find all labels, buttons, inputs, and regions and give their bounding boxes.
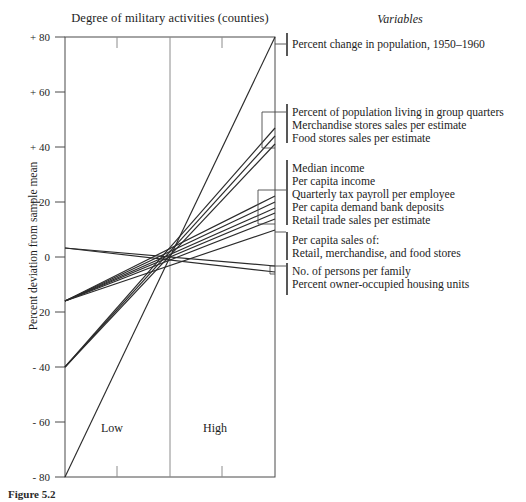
figure-caption: Figure 5.2	[8, 488, 55, 500]
variable-label-retail-trade-sales: Retail trade sales per estimate	[292, 214, 430, 227]
figure-container: Degree of military activities (counties)…	[0, 0, 526, 502]
variable-label-merchandise-stores: Merchandise stores sales per estimate	[292, 119, 467, 132]
variable-label-tax-payroll: Quarterly tax payroll per employee	[292, 188, 455, 201]
variable-label-owner-occupied: Percent owner-occupied housing units	[292, 278, 469, 291]
variable-label-group-quarters: Percent of population living in group qu…	[292, 106, 504, 119]
variable-label-median-income: Median income	[292, 162, 364, 175]
leader-lines	[258, 44, 286, 274]
variable-label-per-capita-sales: Per capita sales of:	[292, 234, 379, 247]
variable-label-food-stores: Food stores sales per estimate	[292, 132, 430, 145]
variable-label-population-change: Percent change in population, 1950–1960	[292, 38, 485, 51]
variable-label-persons-per-family: No. of persons per family	[292, 265, 411, 278]
y-axis-ticks	[55, 37, 65, 477]
variable-label-retail-merch-food: Retail, merchandise, and food stores	[292, 247, 461, 260]
variable-label-per-capita-income: Per capita income	[292, 175, 375, 188]
variable-label-bank-deposits: Per capita demand bank deposits	[292, 201, 444, 214]
